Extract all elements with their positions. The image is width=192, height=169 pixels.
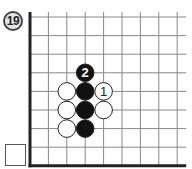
answer-box[interactable] (5, 144, 26, 166)
white-stone (58, 101, 76, 119)
white-stone (58, 83, 76, 101)
white-stone: 1 (95, 83, 113, 101)
move-number-label: 2 (82, 65, 89, 80)
board-stones: 21 (58, 64, 112, 137)
white-stone (58, 120, 76, 138)
black-stone (76, 120, 94, 138)
white-stone (95, 101, 113, 119)
black-stone: 2 (76, 64, 94, 82)
go-board: 21 (0, 0, 192, 169)
black-stone (76, 101, 94, 119)
move-number-label: 1 (100, 84, 107, 99)
black-stone (76, 83, 94, 101)
